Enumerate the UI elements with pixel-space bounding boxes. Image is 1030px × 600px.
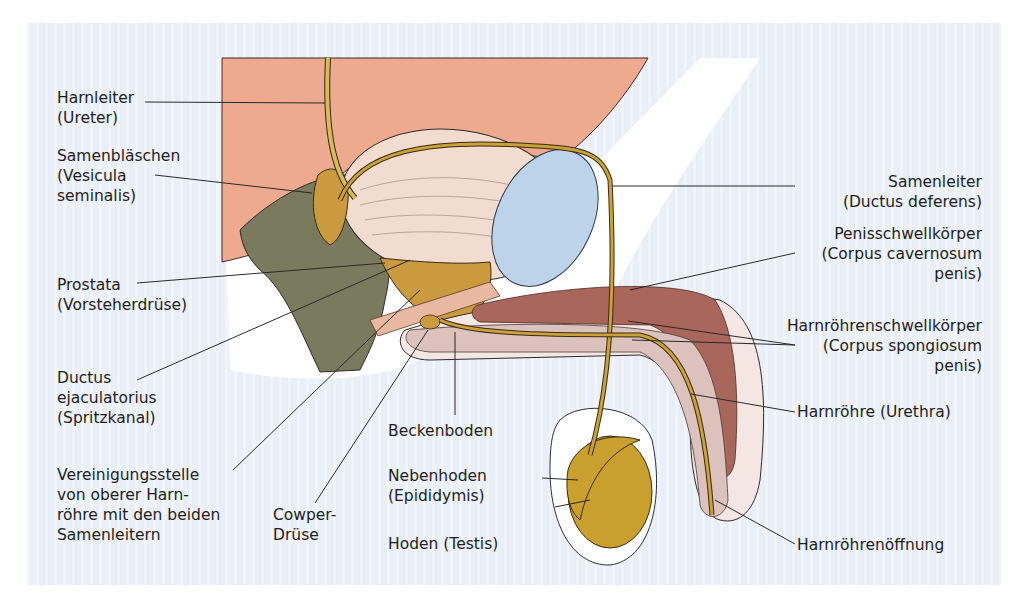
label-ejaculatory-duct-line: (Spritzkanal) bbox=[57, 408, 157, 428]
label-seminal-vesicle-line: seminalis) bbox=[57, 186, 180, 206]
label-pelvic-floor-line: Beckenboden bbox=[388, 421, 493, 441]
label-junction: Vereinigungsstelle von oberer Harn- röhr… bbox=[57, 465, 220, 545]
label-prostate-line: Prostata bbox=[57, 275, 187, 295]
label-junction-line: röhre mit den beiden bbox=[57, 505, 220, 525]
label-pelvic-floor: Beckenboden bbox=[388, 421, 493, 441]
label-junction-line: Vereinigungsstelle bbox=[57, 465, 220, 485]
label-ureter: Harnleiter (Ureter) bbox=[57, 88, 134, 128]
label-ureter-line: (Ureter) bbox=[57, 108, 134, 128]
label-ejaculatory-duct: Ductus ejaculatorius (Spritzkanal) bbox=[57, 368, 157, 428]
label-urethra-line: Harnröhre (Urethra) bbox=[797, 402, 951, 422]
label-epididymis: Nebenhoden (Epididymis) bbox=[388, 466, 487, 506]
label-seminal-vesicle-line: (Vesicula bbox=[57, 166, 180, 186]
label-corpus-spongiosum-line: Harnröhrenschwellkörper bbox=[787, 316, 982, 336]
label-prostate: Prostata (Vorsteherdrüse) bbox=[57, 275, 187, 315]
label-ejaculatory-duct-line: ejaculatorius bbox=[57, 388, 157, 408]
label-seminal-vesicle-line: Samenbläschen bbox=[57, 146, 180, 166]
label-urethral-opening: Harnröhrenöffnung bbox=[797, 535, 944, 555]
label-corpus-cavernosum-line: penis) bbox=[821, 264, 982, 284]
label-epididymis-line: (Epididymis) bbox=[388, 486, 487, 506]
label-ureter-line: Harnleiter bbox=[57, 88, 134, 108]
label-corpus-cavernosum-line: (Corpus cavernosum bbox=[821, 244, 982, 264]
label-cowper-line: Cowper- bbox=[273, 505, 336, 525]
label-urethra: Harnröhre (Urethra) bbox=[797, 402, 951, 422]
label-cowper-gland: Cowper- Drüse bbox=[273, 505, 336, 545]
label-junction-line: von oberer Harn- bbox=[57, 485, 220, 505]
label-epididymis-line: Nebenhoden bbox=[388, 466, 487, 486]
label-corpus-spongiosum-line: (Corpus spongiosum bbox=[787, 336, 982, 356]
label-prostate-line: (Vorsteherdrüse) bbox=[57, 295, 187, 315]
label-corpus-cavernosum-line: Penisschwellkörper bbox=[821, 224, 982, 244]
label-seminal-vesicle: Samenbläschen (Vesicula seminalis) bbox=[57, 146, 180, 206]
label-vas-deferens-line: (Ductus deferens) bbox=[843, 192, 982, 212]
label-vas-deferens: Samenleiter (Ductus deferens) bbox=[843, 172, 982, 212]
label-vas-deferens-line: Samenleiter bbox=[843, 172, 982, 192]
label-urethral-opening-line: Harnröhrenöffnung bbox=[797, 535, 944, 555]
label-cowper-line: Drüse bbox=[273, 525, 336, 545]
label-junction-line: Samenleitern bbox=[57, 525, 220, 545]
label-ejaculatory-duct-line: Ductus bbox=[57, 368, 157, 388]
cowper-gland-shape bbox=[420, 315, 440, 329]
label-corpus-cavernosum: Penisschwellkörper (Corpus cavernosum pe… bbox=[821, 224, 982, 284]
label-testis-line: Hoden (Testis) bbox=[388, 534, 498, 554]
label-testis: Hoden (Testis) bbox=[388, 534, 498, 554]
label-corpus-spongiosum-line: penis) bbox=[787, 356, 982, 376]
label-corpus-spongiosum: Harnröhrenschwellkörper (Corpus spongios… bbox=[787, 316, 982, 376]
